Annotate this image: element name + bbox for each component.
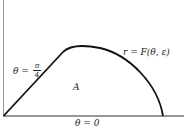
ray-label-numerator: π <box>33 63 41 70</box>
baseline-label: θ = 0 <box>75 119 99 128</box>
polar-region-diagram: r = F(θ, ε) θ = π 4 A θ = 0 <box>0 0 189 130</box>
curve-label: r = F(θ, ε) <box>123 48 170 57</box>
diagram-graphics <box>0 0 189 130</box>
ray-label-prefix: θ = <box>13 67 29 76</box>
ray-theta-pi-over-4 <box>4 52 64 116</box>
ray-label-denominator: 4 <box>33 72 41 79</box>
region-label: A <box>73 83 80 92</box>
